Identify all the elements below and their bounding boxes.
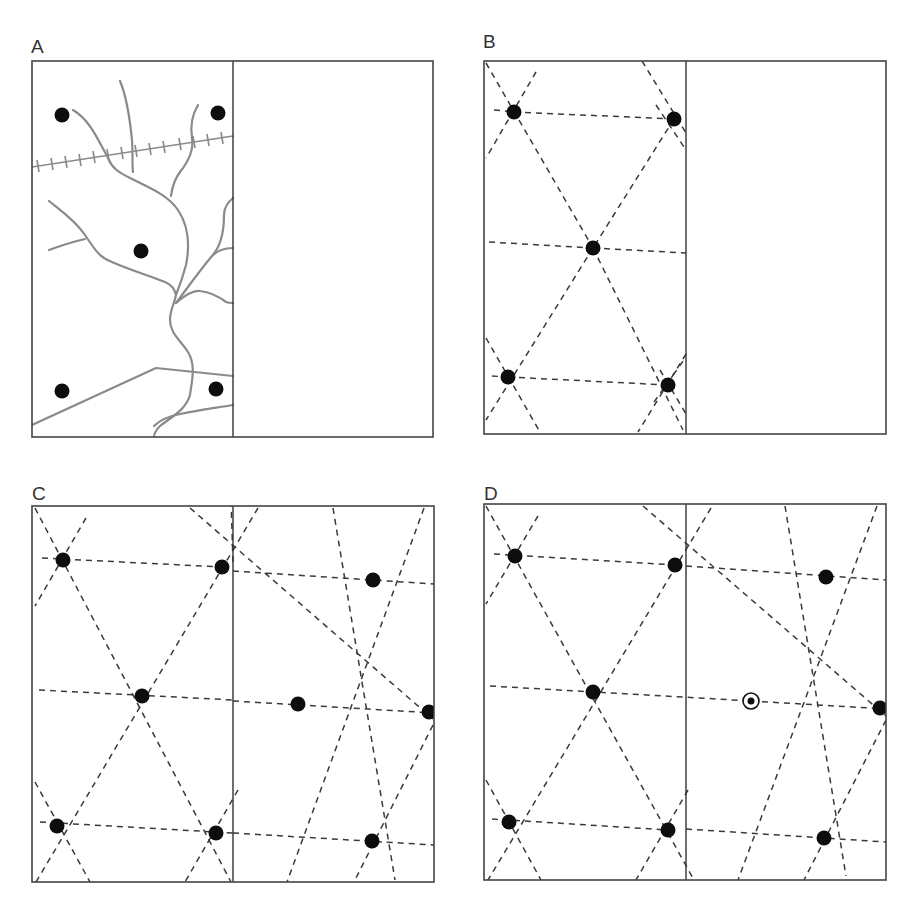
settlement-node (211, 106, 226, 121)
railway-tick (135, 145, 137, 157)
settlement-node (56, 553, 71, 568)
panel-label: D (484, 483, 498, 504)
panel-content (486, 61, 686, 432)
lattice-line (656, 105, 686, 150)
lattice-line (233, 833, 434, 845)
railway-tick (207, 134, 209, 146)
railway-tick (93, 151, 95, 163)
lattice-line (804, 720, 886, 880)
panel-c: C (32, 483, 437, 882)
lattice-line (643, 506, 886, 716)
lattice-line (508, 377, 668, 385)
lattice-line (738, 506, 877, 880)
settlement-node (50, 819, 65, 834)
lattice-line (486, 338, 540, 432)
settlement-node (209, 826, 224, 841)
settlement-node (586, 685, 601, 700)
panel-b: B (483, 31, 886, 434)
settlement-node (209, 382, 224, 397)
railway-tick (221, 132, 223, 144)
settlement-node (135, 689, 150, 704)
railway-tick (37, 160, 39, 172)
figure-canvas: ABCD (0, 0, 906, 903)
settlement-node (508, 549, 523, 564)
railway-tick (163, 141, 165, 153)
lattice-line (190, 508, 433, 719)
settlement-node (586, 241, 601, 256)
settlement-node (502, 815, 517, 830)
panel-content (35, 500, 437, 882)
river-line (171, 105, 198, 196)
settlement-node (215, 560, 230, 575)
settlement-node (817, 831, 832, 846)
lattice-line (686, 829, 886, 842)
railway-tick (65, 156, 67, 168)
railway-tick (121, 147, 123, 159)
lattice-line (660, 370, 686, 414)
railway-tick (179, 138, 181, 150)
lattice-line (593, 248, 683, 430)
settlement-node (819, 570, 834, 585)
river-line (176, 248, 233, 303)
lattice-line (593, 248, 686, 253)
settlement-node (667, 112, 682, 127)
settlement-node (668, 558, 683, 573)
river-line (49, 239, 85, 250)
lattice-line (489, 242, 593, 248)
settlement-node (661, 378, 676, 393)
lattice-line (492, 819, 668, 830)
settlement-node (661, 823, 676, 838)
lattice-line (35, 782, 90, 882)
panel-frame (484, 61, 886, 434)
lattice-line (486, 248, 593, 420)
lattice-line (486, 780, 541, 880)
settlement-node (366, 573, 381, 588)
settlement-node (55, 108, 70, 123)
lattice-line (233, 571, 434, 584)
panel-content (32, 81, 233, 437)
panel-d: D (484, 483, 888, 880)
lattice-line (287, 508, 424, 882)
panel-frame (484, 504, 886, 880)
lattice-line (490, 686, 751, 701)
settlement-node (55, 384, 70, 399)
settlement-node (291, 697, 306, 712)
lattice-line (486, 63, 593, 248)
lattice-line (785, 506, 846, 876)
panel-a: A (31, 36, 433, 437)
lattice-line (233, 701, 434, 713)
river-line (120, 81, 133, 172)
settlement-node (507, 105, 522, 120)
panel-label: C (32, 483, 46, 504)
settlement-node (365, 834, 380, 849)
settlement-node (134, 244, 149, 259)
lattice-line (636, 790, 688, 880)
lattice-line (354, 725, 433, 882)
railway-tick (149, 143, 151, 155)
railway-tick (107, 149, 109, 161)
panel-content (486, 506, 888, 880)
railway-tick (51, 158, 53, 170)
panel-label: B (483, 31, 496, 52)
central-place-dot (748, 698, 755, 705)
railway-tick (79, 154, 81, 166)
lattice-line (333, 508, 395, 880)
river-line (49, 201, 176, 295)
lattice-line (686, 566, 886, 580)
panel-label: A (31, 36, 44, 57)
lattice-line (514, 112, 674, 119)
settlement-node (501, 370, 516, 385)
lattice-line (593, 119, 674, 248)
